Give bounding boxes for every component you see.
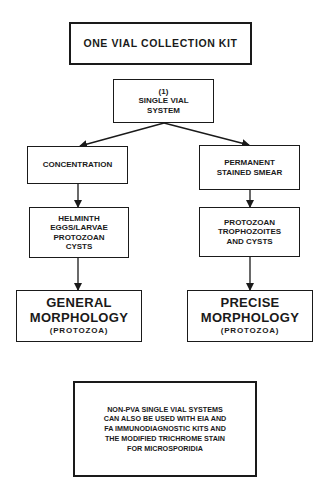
precise-line-2: MORPHOLOGY — [201, 311, 299, 326]
title-text: ONE VIAL COLLECTION KIT — [83, 37, 237, 49]
precise-line-1: PRECISE — [220, 296, 279, 311]
note-box: NON-PVA SINGLE VIAL SYSTEMS CAN ALSO BE … — [73, 381, 257, 477]
protozoan-line-1: PROTOZOAN — [224, 218, 275, 227]
protozoan-line-2: TROPHOZOITES — [218, 227, 281, 236]
arrow-system-to-concentration — [80, 123, 164, 146]
precise-line-3: (PROTOZOA) — [221, 326, 280, 335]
general-morphology-box: GENERAL MORPHOLOGY (PROTOZOA) — [16, 290, 142, 342]
helminth-line-1: HELMINTH — [58, 214, 99, 223]
general-line-1: GENERAL — [46, 296, 112, 311]
title-box: ONE VIAL COLLECTION KIT — [69, 22, 252, 65]
single-vial-system-box: (1) SINGLE VIAL SYSTEM — [113, 79, 214, 123]
system-line-2: SYSTEM — [147, 106, 180, 115]
system-number: (1) — [159, 87, 169, 96]
precise-morphology-box: PRECISE MORPHOLOGY (PROTOZOA) — [187, 290, 313, 342]
note-line-5: FOR MICROSPORIDIA — [127, 444, 203, 454]
general-line-2: MORPHOLOGY — [30, 311, 128, 326]
permanent-line-2: STAINED SMEAR — [217, 168, 283, 177]
concentration-text: CONCENTRATION — [43, 160, 113, 169]
concentration-box: CONCENTRATION — [27, 146, 128, 184]
protozoan-box: PROTOZOAN TROPHOZOITES AND CYSTS — [199, 207, 300, 257]
helminth-line-3: PROTOZOAN — [54, 233, 105, 242]
helminth-line-4: CYSTS — [66, 242, 93, 251]
note-line-1: NON-PVA SINGLE VIAL SYSTEMS — [107, 405, 223, 415]
note-line-3: FA IMMUNODIAGNOSTIC KITS AND — [104, 424, 226, 434]
system-line-1: SINGLE VIAL — [138, 96, 188, 105]
protozoan-line-3: AND CYSTS — [226, 237, 272, 246]
helminth-line-2: EGGS/LARVAE — [50, 223, 108, 232]
arrow-system-to-permanent — [164, 123, 249, 145]
permanent-stained-smear-box: PERMANENT STAINED SMEAR — [199, 145, 300, 190]
permanent-line-1: PERMANENT — [224, 158, 275, 167]
note-line-2: CAN ALSO BE USED WITH EIA AND — [104, 414, 227, 424]
helminth-box: HELMINTH EGGS/LARVAE PROTOZOAN CYSTS — [29, 207, 129, 258]
general-line-3: (PROTOZOA) — [50, 326, 109, 335]
note-line-4: THE MODIFIED TRICHROME STAIN — [105, 434, 225, 444]
